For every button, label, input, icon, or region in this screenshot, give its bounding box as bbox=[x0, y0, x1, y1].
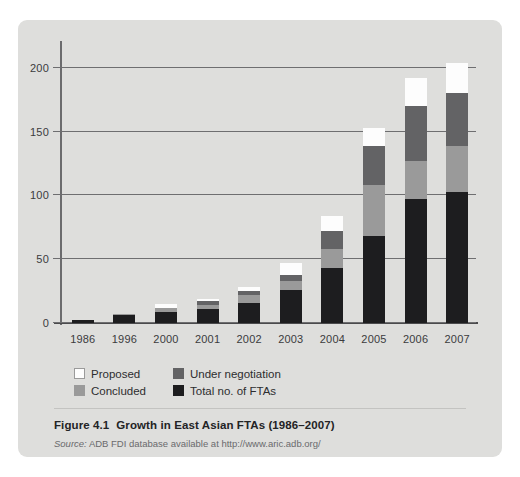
source-text: ADB FDI database available at http://www… bbox=[89, 438, 321, 449]
legend-item-proposed: Proposed bbox=[74, 368, 173, 380]
y-tick-mark-100 bbox=[53, 194, 60, 195]
x-axis-label-2002: 2002 bbox=[237, 333, 262, 345]
bar-segment-proposed-2000[interactable] bbox=[155, 304, 177, 308]
bar-segment-total-2000[interactable] bbox=[155, 312, 177, 323]
bar-segment-under-negotiation-2005[interactable] bbox=[363, 146, 385, 186]
bar-segment-total-2002[interactable] bbox=[238, 303, 260, 323]
bar-group-2005[interactable]: 2005 bbox=[363, 55, 385, 323]
bar-segment-total-1996[interactable] bbox=[113, 315, 135, 323]
bar-group-2001[interactable]: 2001 bbox=[197, 55, 219, 323]
bar-segment-total-2001[interactable] bbox=[197, 309, 219, 323]
bar-group-2002[interactable]: 2002 bbox=[238, 55, 260, 323]
y-tick-mark-50 bbox=[53, 258, 60, 259]
x-axis-label-2007: 2007 bbox=[445, 333, 470, 345]
x-axis-label-2006: 2006 bbox=[403, 333, 428, 345]
x-axis-label-2005: 2005 bbox=[361, 333, 386, 345]
legend-label-concluded: Concluded bbox=[91, 385, 146, 397]
bar-segment-under-negotiation-2004[interactable] bbox=[321, 231, 343, 249]
bar-segment-proposed-2003[interactable] bbox=[280, 263, 302, 274]
bar-segment-total-2007[interactable] bbox=[446, 192, 468, 323]
bar-segment-under-negotiation-2003[interactable] bbox=[280, 275, 302, 281]
bar-group-2004[interactable]: 2004 bbox=[321, 55, 343, 323]
chart-panel: 050100150200 198619962000200120022003200… bbox=[18, 20, 502, 457]
bar-segment-under-negotiation-2002[interactable] bbox=[238, 291, 260, 295]
bar-segment-total-2005[interactable] bbox=[363, 236, 385, 323]
bar-segment-concluded-2001[interactable] bbox=[197, 305, 219, 309]
bars-layer: 1986199620002001200220032004200520062007 bbox=[60, 55, 476, 323]
figure-number: Figure 4.1 bbox=[54, 419, 109, 431]
bar-group-1996[interactable]: 1996 bbox=[113, 55, 135, 323]
legend-row: Proposed Under negotiation bbox=[74, 365, 474, 382]
bar-segment-proposed-2004[interactable] bbox=[321, 216, 343, 231]
legend-item-total: Total no. of FTAs bbox=[173, 385, 276, 397]
x-axis-label-1986: 1986 bbox=[70, 333, 95, 345]
bar-segment-concluded-2006[interactable] bbox=[405, 161, 427, 199]
y-axis-label-100: 100 bbox=[30, 189, 49, 201]
bar-segment-total-2004[interactable] bbox=[321, 268, 343, 323]
x-axis-label-2004: 2004 bbox=[320, 333, 345, 345]
figure-title: Growth in East Asian FTAs (1986–2007) bbox=[116, 419, 334, 431]
y-axis-label-50: 50 bbox=[36, 253, 49, 265]
x-axis-label-2001: 2001 bbox=[195, 333, 220, 345]
bar-segment-proposed-2001[interactable] bbox=[197, 299, 219, 302]
bar-segment-concluded-2004[interactable] bbox=[321, 249, 343, 268]
x-axis-label-2003: 2003 bbox=[278, 333, 303, 345]
bar-segment-concluded-2000[interactable] bbox=[155, 308, 177, 312]
bar-segment-under-negotiation-2001[interactable] bbox=[197, 301, 219, 305]
bar-segment-concluded-2002[interactable] bbox=[238, 295, 260, 303]
bar-segment-proposed-2007[interactable] bbox=[446, 63, 468, 94]
y-axis-label-200: 200 bbox=[30, 62, 49, 74]
legend-swatch-proposed-icon bbox=[74, 368, 85, 379]
x-axis-label-1996: 1996 bbox=[112, 333, 137, 345]
bar-group-2000[interactable]: 2000 bbox=[155, 55, 177, 323]
plot-area: 050100150200 198619962000200120022003200… bbox=[60, 55, 476, 323]
x-axis-label-2000: 2000 bbox=[153, 333, 178, 345]
y-tick-mark-150 bbox=[53, 131, 60, 132]
bar-segment-total-2006[interactable] bbox=[405, 199, 427, 323]
legend-item-concluded: Concluded bbox=[74, 385, 173, 397]
bar-segment-under-negotiation-2006[interactable] bbox=[405, 106, 427, 161]
y-axis-label-150: 150 bbox=[30, 126, 49, 138]
legend-item-under-negotiation: Under negotiation bbox=[173, 368, 281, 380]
bar-segment-concluded-2003[interactable] bbox=[280, 281, 302, 290]
legend-swatch-concluded-icon bbox=[74, 385, 85, 396]
legend-swatch-under-negotiation-icon bbox=[173, 368, 184, 379]
bar-group-1986[interactable]: 1986 bbox=[72, 55, 94, 323]
figure-source: Source: ADB FDI database available at ht… bbox=[54, 438, 321, 449]
legend-label-total: Total no. of FTAs bbox=[190, 385, 276, 397]
bar-segment-concluded-1996[interactable] bbox=[113, 314, 135, 315]
y-axis-label-0: 0 bbox=[43, 317, 49, 329]
bar-group-2007[interactable]: 2007 bbox=[446, 55, 468, 323]
bar-segment-concluded-2005[interactable] bbox=[363, 185, 385, 236]
bar-segment-total-1986[interactable] bbox=[72, 320, 94, 323]
bar-group-2006[interactable]: 2006 bbox=[405, 55, 427, 323]
chart-legend: Proposed Under negotiation Concluded Tot… bbox=[74, 365, 474, 399]
bar-segment-proposed-2002[interactable] bbox=[238, 287, 260, 291]
legend-label-proposed: Proposed bbox=[91, 368, 140, 380]
legend-label-under-negotiation: Under negotiation bbox=[190, 368, 281, 380]
caption-divider bbox=[54, 408, 466, 409]
legend-swatch-total-icon bbox=[173, 385, 184, 396]
bar-segment-proposed-2005[interactable] bbox=[363, 128, 385, 146]
legend-row: Concluded Total no. of FTAs bbox=[74, 382, 474, 399]
bar-segment-proposed-2006[interactable] bbox=[405, 78, 427, 106]
bar-group-2003[interactable]: 2003 bbox=[280, 55, 302, 323]
bar-segment-total-2003[interactable] bbox=[280, 290, 302, 323]
y-tick-mark-0 bbox=[53, 322, 60, 323]
bar-segment-under-negotiation-2007[interactable] bbox=[446, 93, 468, 145]
source-label: Source: bbox=[54, 438, 87, 449]
y-tick-mark-200 bbox=[53, 67, 60, 68]
figure-container: 050100150200 198619962000200120022003200… bbox=[0, 0, 520, 477]
bar-segment-concluded-2007[interactable] bbox=[446, 146, 468, 192]
figure-caption: Figure 4.1Growth in East Asian FTAs (198… bbox=[54, 419, 335, 431]
